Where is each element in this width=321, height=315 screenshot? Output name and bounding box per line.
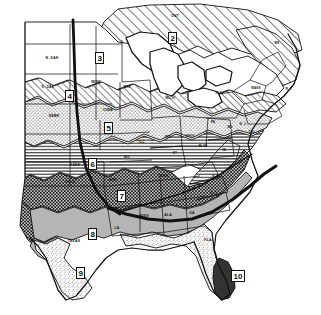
zone-label-8: 8 <box>88 228 97 240</box>
state-label-ga: GA <box>189 211 195 215</box>
state-label-ark: ARK <box>109 178 117 182</box>
state-label-va: VA <box>222 148 226 152</box>
state-label-md: MD <box>228 125 233 129</box>
state-label-ill: ILL <box>139 140 145 144</box>
state-label-mo: MO <box>124 155 130 159</box>
state-label-n-dak: N. DAK <box>45 56 58 60</box>
map-canvas <box>0 0 321 315</box>
state-label-texas: TEXAS <box>68 239 81 243</box>
zone-label-2: 2 <box>168 32 177 44</box>
state-label-me: ME <box>275 41 280 45</box>
state-label-r-i: R. I. <box>286 87 292 91</box>
state-label-n-c: N. C. <box>212 174 220 178</box>
zone-label-10: 10 <box>231 270 245 282</box>
state-label-kans: KANS <box>70 163 81 167</box>
state-label-s-c: S. C. <box>210 191 217 195</box>
state-label-n-y: N. Y. <box>215 91 222 95</box>
state-label-mass: MASS <box>251 86 260 90</box>
state-label-s-dak: S. DAK <box>42 85 55 89</box>
state-label-fla: FLA <box>204 238 211 242</box>
state-label-ohio: OHIO <box>185 134 195 138</box>
zone-label-3: 3 <box>95 52 104 64</box>
state-label-tenn: TENN <box>158 174 168 178</box>
state-label-miss: MISS <box>139 214 148 218</box>
zone-label-4: 4 <box>65 90 74 102</box>
zone-label-6: 6 <box>88 158 97 170</box>
hardiness-zone-map: 2 3 4 5 6 7 8 9 10 ONT N. DAK S. DAK NEB… <box>0 0 321 315</box>
state-label-okla: OKLA <box>65 180 76 184</box>
state-label-ala: ALA <box>164 213 172 217</box>
state-label-la: LA <box>114 226 119 230</box>
state-label-wis: WIS <box>123 85 130 89</box>
state-label-n-j: N. J. <box>239 122 246 126</box>
zone-label-9: 9 <box>76 267 85 279</box>
state-label-mich: MICH <box>165 96 175 100</box>
state-label-pa: PA <box>211 120 215 124</box>
zone-label-7: 7 <box>117 190 126 202</box>
zone-label-5: 5 <box>104 122 113 134</box>
state-label-w-va: W. VA <box>198 144 207 148</box>
state-label-ont: ONT <box>171 14 179 18</box>
state-label-iowa: IOWA <box>103 108 113 112</box>
state-label-ind: IND <box>165 135 172 139</box>
state-label-minn: MINN <box>91 80 101 84</box>
state-label-del: DEL <box>249 130 255 134</box>
state-label-ky: KY <box>173 151 177 155</box>
state-label-nebr: NEBR <box>49 114 60 118</box>
